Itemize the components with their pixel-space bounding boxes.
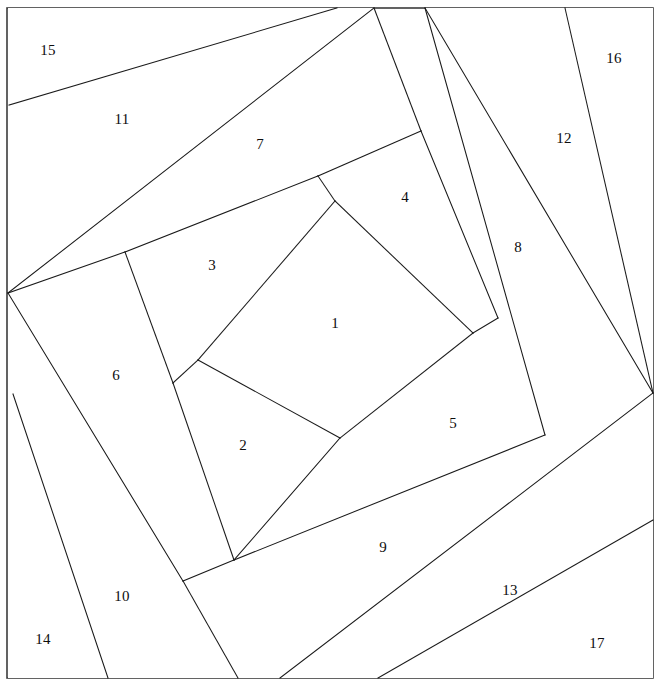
region-label-13: 13: [502, 582, 517, 598]
region-label-17: 17: [589, 635, 605, 651]
region-label-11: 11: [115, 111, 130, 127]
region-label-2: 2: [239, 437, 247, 453]
region-label-14: 14: [35, 631, 51, 647]
region-label-4: 4: [401, 189, 409, 205]
region-label-8: 8: [514, 239, 522, 255]
region-label-10: 10: [114, 588, 129, 604]
region-label-12: 12: [556, 130, 571, 146]
region-label-6: 6: [112, 367, 120, 383]
region-label-15: 15: [40, 42, 55, 58]
regions-layer: [8, 8, 653, 678]
region-label-9: 9: [379, 539, 387, 555]
region-label-16: 16: [606, 50, 622, 66]
region-label-1: 1: [331, 315, 339, 331]
region-label-5: 5: [449, 415, 457, 431]
region-label-7: 7: [256, 136, 264, 152]
diagram-root: 1234567891011121314151617: [0, 0, 661, 687]
spiral-tiling-figure: 1234567891011121314151617: [0, 0, 661, 687]
region-label-3: 3: [208, 257, 216, 273]
